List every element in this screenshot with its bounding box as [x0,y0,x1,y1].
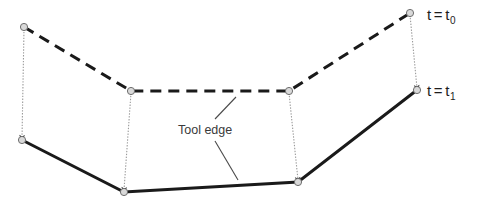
node-t1-right-knee [294,178,301,185]
displacement-right-knee [289,93,298,180]
tool-edge-polyline-t0 [24,13,410,91]
time-label-t1-subscript: 1 [450,91,456,102]
displacement-left-knee [124,93,131,190]
tool-edge-caption: Tool edge [178,123,232,137]
leader-to-dashed-edge [215,97,236,119]
node-t1-left-knee [120,188,127,195]
node-t1-left-end [18,136,25,143]
leader-line-group [215,97,238,180]
node-t0-left-end [20,23,27,30]
tool-edge-polyline-t1 [22,90,417,192]
time-label-t0: t=t0 [427,6,456,26]
node-t1-right-end [413,86,420,93]
displacement-left-end [22,29,24,138]
leader-to-solid-edge [215,141,238,180]
displacement-right-end [410,15,417,88]
tool-edge-diagram: t=t0 t=t1 Tool edge [0,0,484,207]
time-label-t0-subscript: 0 [450,15,456,26]
time-label-t1: t=t1 [427,82,456,102]
displacement-arrow-group [22,15,417,190]
time-label-t0-equals: = [432,6,445,23]
time-label-t1-equals: = [432,82,445,99]
node-t0-left-knee [127,87,134,94]
node-t0-right-end [406,9,413,16]
node-t0-right-knee [285,87,292,94]
diagram-canvas [0,0,484,207]
